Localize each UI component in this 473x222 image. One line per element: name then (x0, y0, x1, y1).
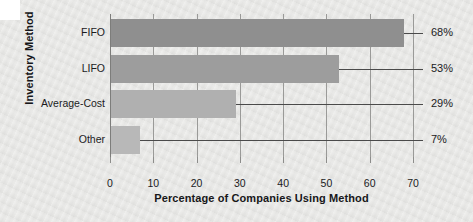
bar (111, 90, 236, 118)
bar (111, 126, 140, 154)
chart-figure: Inventory Method FIFOLIFOAverage-CostOth… (0, 0, 473, 222)
x-axis-tick-label: 20 (177, 177, 217, 189)
gridline (413, 14, 414, 157)
x-axis-tick-label: 0 (90, 177, 130, 189)
x-axis-tick-label: 30 (220, 177, 260, 189)
x-axis-tick-label: 60 (350, 177, 390, 189)
plot-area: 01020304050607068%53%29%7% (110, 14, 413, 157)
x-axis-tick-label: 10 (133, 177, 173, 189)
value-leader-line (404, 33, 423, 34)
x-axis-tick (370, 157, 371, 163)
category-label: Average-Cost (5, 97, 105, 109)
x-axis-tick-label: 70 (393, 177, 433, 189)
bar-value-label: 68% (431, 26, 453, 38)
x-axis-tick (197, 157, 198, 163)
bar-value-label: 29% (431, 97, 453, 109)
x-axis-tick (413, 157, 414, 163)
x-axis-tick (283, 157, 284, 163)
x-axis-tick (240, 157, 241, 163)
bar (111, 19, 404, 47)
bar-value-label: 7% (431, 133, 447, 145)
category-label: LIFO (5, 62, 105, 74)
x-axis-tick-label: 40 (263, 177, 303, 189)
x-axis-tick (153, 157, 154, 163)
value-leader-line (236, 104, 423, 105)
x-axis-tick (326, 157, 327, 163)
bar (111, 55, 339, 83)
value-leader-line (339, 69, 423, 70)
category-label: Other (5, 133, 105, 145)
x-axis-tick (110, 157, 111, 163)
bar-value-label: 53% (431, 62, 453, 74)
x-axis-tick-label: 50 (306, 177, 346, 189)
x-axis-title: Percentage of Companies Using Method (110, 192, 413, 204)
value-leader-line (140, 140, 423, 141)
category-label: FIFO (5, 26, 105, 38)
